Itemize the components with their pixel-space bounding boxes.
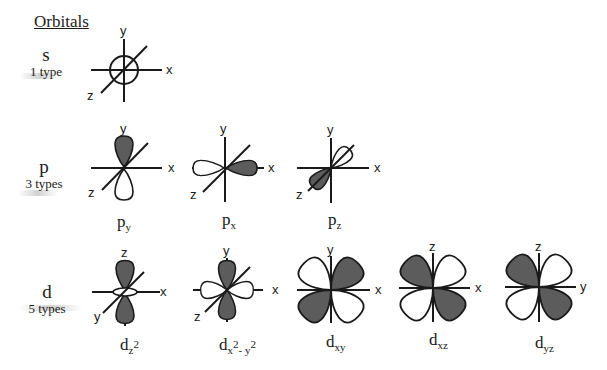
- axis-label-x: x: [375, 282, 382, 297]
- orbital-py: [91, 136, 162, 200]
- orbital-caption-py: py: [117, 212, 132, 233]
- orbital-pz: [297, 138, 369, 203]
- axis-label-y: y: [94, 309, 101, 324]
- orbital-dx2-y2: [193, 258, 263, 322]
- orbital-px: [192, 137, 264, 202]
- orbital-diagrams: y x z y x z py y x z px y x z pz: [0, 0, 607, 370]
- orbital-dz2: [92, 261, 160, 326]
- orbital-caption-dz2: dz2: [120, 335, 139, 356]
- axis-label-z: z: [535, 239, 542, 254]
- axis-label-x: x: [268, 160, 275, 175]
- axis-label-z: z: [88, 185, 95, 200]
- axis-label-y: y: [580, 279, 587, 294]
- axis-label-x: x: [272, 282, 279, 297]
- axis-label-x: x: [374, 160, 381, 175]
- axis-label-y: y: [120, 121, 127, 136]
- orbital-caption-dxz: dxz: [429, 330, 448, 351]
- axis-label-y: y: [327, 242, 334, 257]
- axis-label-z: z: [87, 88, 94, 103]
- axis-label-y: y: [120, 23, 127, 38]
- axis-label-z: z: [429, 239, 436, 254]
- orbital-caption-dyz: dyz: [535, 333, 554, 354]
- orbital-caption-dx2-y2: dx2- y2: [219, 335, 256, 356]
- axis-label-x: x: [160, 284, 167, 299]
- axis-label-x: x: [168, 160, 175, 175]
- axis-label-z: z: [296, 187, 303, 202]
- axis-label-y: y: [223, 243, 230, 258]
- orbital-dxz: [396, 251, 470, 325]
- orbital-caption-pz: pz: [328, 210, 342, 231]
- axis-label-x: x: [475, 280, 482, 295]
- orbital-caption-px: px: [222, 210, 237, 231]
- axis-label-y: y: [220, 121, 227, 136]
- axis-label-z: z: [194, 309, 201, 324]
- axis-label-z: z: [190, 187, 197, 202]
- orbital-caption-dxy: dxy: [326, 332, 346, 353]
- axis-label-x: x: [166, 62, 173, 77]
- orbital-s: [91, 39, 162, 102]
- orbital-dyz: [502, 250, 576, 324]
- orbital-dxy: [294, 253, 370, 327]
- axis-label-y: y: [327, 122, 334, 137]
- axis-label-z: z: [121, 245, 128, 260]
